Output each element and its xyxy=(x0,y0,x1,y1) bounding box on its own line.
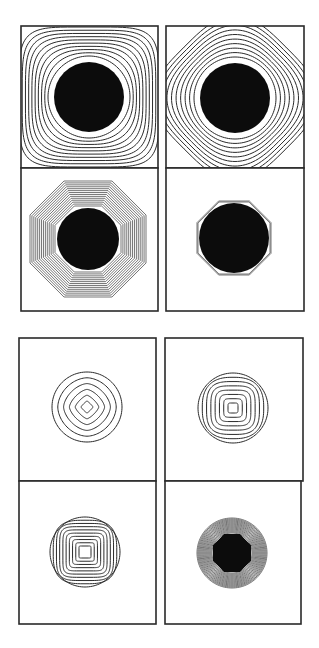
panel-top-d xyxy=(166,168,304,311)
filled-disk xyxy=(199,203,269,273)
filled-disk xyxy=(54,62,124,132)
panel-top-b xyxy=(153,16,317,180)
panel-bottom-d xyxy=(165,481,301,624)
filled-disk xyxy=(57,208,119,270)
panel-frame xyxy=(165,338,303,481)
top-panel-group xyxy=(19,16,317,311)
panel-frame xyxy=(19,338,156,481)
panel-bottom-b xyxy=(165,338,303,481)
panel-frame xyxy=(19,481,156,624)
panel-bottom-a xyxy=(19,338,156,481)
filled-octagon xyxy=(213,534,251,572)
filled-disk xyxy=(200,63,270,133)
panel-top-c xyxy=(21,168,158,311)
bottom-panel-group xyxy=(19,338,303,624)
panel-bottom-c xyxy=(19,481,156,624)
contour-figure xyxy=(0,0,319,648)
panel-top-a xyxy=(19,26,159,168)
